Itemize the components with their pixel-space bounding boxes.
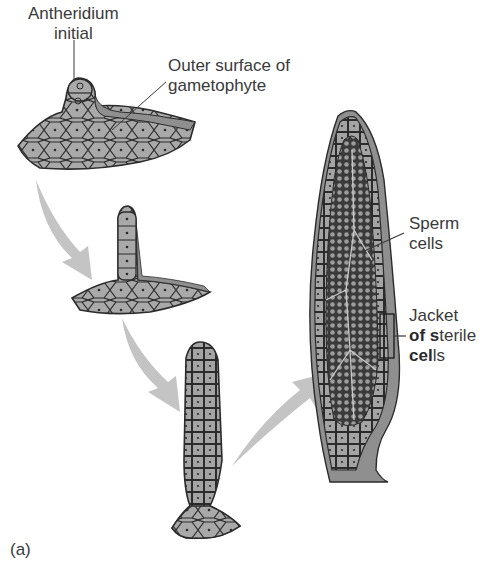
label-jacket-line2-rest: terile — [439, 326, 476, 345]
label-sperm-cells-line2: cells — [409, 234, 459, 254]
stage-3-young-antheridium — [172, 342, 240, 538]
label-jacket-line3-bold: cel — [409, 346, 433, 365]
label-jacket-line2-bold-a: of — [409, 326, 425, 345]
panel-label: (a) — [10, 540, 31, 560]
label-outer-surface: Outer surface of gametophyte — [168, 56, 290, 96]
label-jacket-line3-rest: ls — [433, 346, 445, 365]
label-jacket-line2-bold-b: s — [430, 326, 439, 345]
label-sperm-cells-line1: Sperm — [409, 214, 459, 234]
stage-2-column — [72, 206, 210, 314]
label-antheridium-initial-line2: initial — [28, 24, 119, 44]
antheridium-development-figure: Antheridium initial Outer surface of gam… — [0, 0, 497, 588]
label-jacket-line3: cells — [409, 346, 476, 366]
label-jacket-sterile-cells: Jacket of sterile cells — [409, 306, 476, 366]
arrow-stage1-to-stage2 — [36, 180, 92, 280]
label-sperm-cells: Sperm cells — [409, 214, 459, 254]
label-outer-surface-line2: gametophyte — [168, 76, 290, 96]
label-outer-surface-line1: Outer surface of — [168, 56, 290, 76]
stage-4-mature-antheridium — [310, 111, 400, 482]
arrow-stage2-to-stage3 — [122, 318, 180, 412]
label-antheridium-initial: Antheridium initial — [28, 4, 119, 44]
label-jacket-line2: of sterile — [409, 326, 476, 346]
label-antheridium-initial-line1: Antheridium — [28, 4, 119, 24]
label-jacket-line1: Jacket — [409, 306, 476, 326]
